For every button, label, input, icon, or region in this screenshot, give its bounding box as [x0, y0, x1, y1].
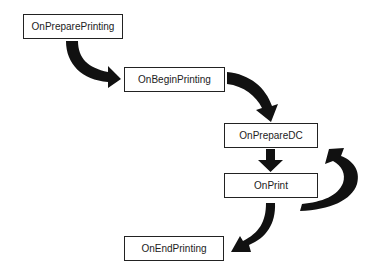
node-onbeginprinting: OnBeginPrinting	[124, 67, 225, 92]
printing-flow-diagram: OnPreparePrinting OnBeginPrinting OnPrep…	[0, 0, 382, 274]
arrow-print-to-endprinting-icon	[231, 203, 275, 252]
node-label: OnBeginPrinting	[138, 74, 211, 85]
node-label: OnPreparePrinting	[32, 21, 115, 32]
node-label: OnPrint	[254, 180, 288, 191]
node-onendprinting: OnEndPrinting	[124, 236, 224, 261]
arrow-begin-to-preparedc-icon	[227, 72, 278, 122]
node-onprepareprinting: OnPreparePrinting	[23, 14, 123, 39]
node-label: OnEndPrinting	[141, 243, 206, 254]
arrows-layer	[0, 0, 382, 274]
arrow-preparedc-to-print-icon	[258, 149, 283, 172]
arrow-prepare-to-begin-icon	[66, 41, 121, 88]
node-label: OnPrepareDC	[239, 130, 302, 141]
node-onprint: OnPrint	[224, 173, 318, 198]
node-onpreparedc: OnPrepareDC	[224, 123, 318, 148]
